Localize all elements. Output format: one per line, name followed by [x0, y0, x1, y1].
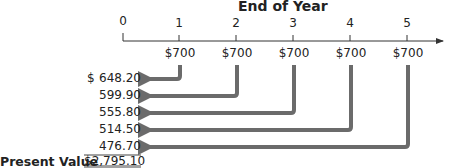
year-label-4: 4: [346, 16, 354, 30]
timeline-diagram: [0, 0, 451, 168]
present-value-2: 599.90: [81, 88, 141, 102]
present-value-4: 514.50: [81, 122, 141, 136]
cash-flow-2: $700: [222, 46, 253, 60]
year-label-2: 2: [232, 16, 240, 30]
year-label-0: 0: [119, 14, 127, 28]
present-value-total: $2,795.10: [84, 154, 145, 168]
cash-flow-4: $700: [336, 46, 367, 60]
discount-arrow-5: [150, 65, 408, 147]
discount-arrow-1: [150, 65, 180, 79]
cash-flow-3: $700: [279, 46, 310, 60]
present-value-5: 476.70: [81, 139, 141, 153]
cash-flow-5: $700: [393, 46, 424, 60]
chart-title: End of Year: [238, 0, 328, 14]
year-label-1: 1: [175, 16, 183, 30]
year-label-5: 5: [403, 16, 411, 30]
cash-flow-1: $700: [165, 46, 196, 60]
present-value-1: 648.20: [81, 71, 141, 85]
present-value-3: 555.80: [81, 105, 141, 119]
axis-ticks: [123, 33, 407, 41]
discount-arrow-3: [150, 65, 294, 113]
year-label-3: 3: [289, 16, 297, 30]
